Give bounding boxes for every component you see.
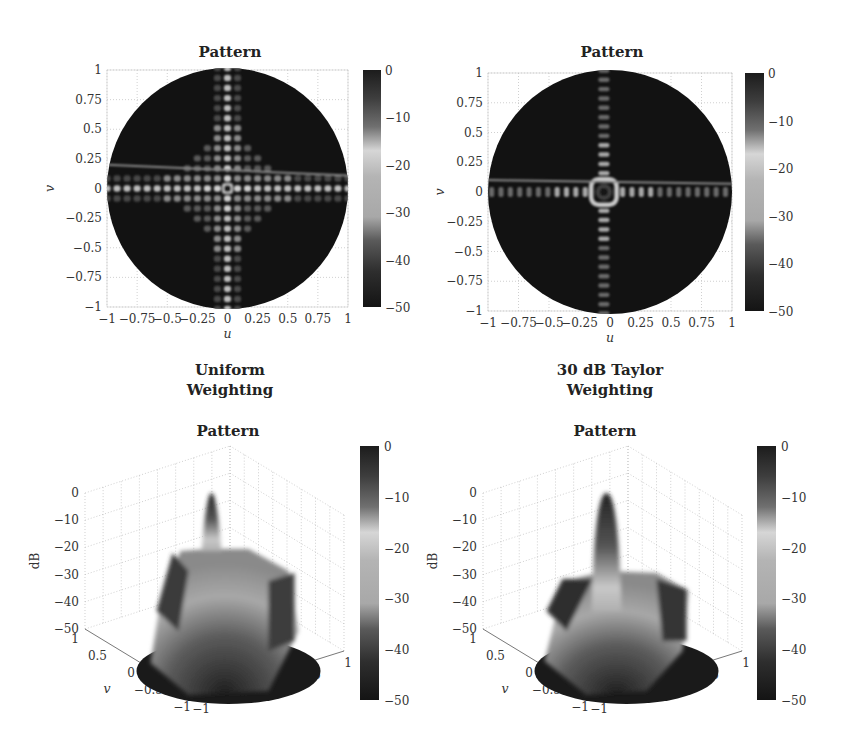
- sidelobe: [334, 175, 341, 181]
- z-tick-label: −30: [54, 568, 79, 582]
- sidelobe: [264, 195, 271, 201]
- sidelobe: [113, 185, 120, 191]
- sidelobe: [234, 225, 241, 231]
- sidelobe: [224, 65, 231, 71]
- colorbar-tick-label: −10: [385, 111, 410, 125]
- colorbar-tick-label: −50: [768, 305, 793, 319]
- v-tick-label: 0.5: [88, 649, 107, 663]
- y-tick-label: 0.75: [456, 96, 483, 110]
- x-tick-label: 0.25: [627, 316, 654, 330]
- sidelobe: [324, 175, 331, 181]
- x-axis-label: u: [606, 330, 614, 345]
- z-tick-label: −10: [452, 513, 477, 527]
- sidelobe: [214, 225, 221, 231]
- sidelobe: [234, 195, 241, 201]
- sidelobe: [244, 215, 251, 221]
- sidelobe: [214, 85, 221, 91]
- figure-canvas: −1−1−0.75−0.75−0.5−0.5−0.25−0.25000.250.…: [0, 0, 852, 750]
- sidelobe-v: [598, 255, 609, 259]
- sidelobe: [144, 195, 151, 201]
- sidelobe: [304, 185, 311, 191]
- sidelobe-v: [598, 246, 609, 250]
- uniform-3d-plot: −50−40−30−20−10010.50−0.5−1−1−0.500.51vu…: [28, 440, 409, 716]
- sidelobe-v: [598, 96, 609, 100]
- mainbeam-peak: [202, 493, 222, 551]
- z-tick-label: 0: [469, 486, 477, 500]
- sidelobe: [224, 135, 231, 141]
- sidelobe: [234, 105, 241, 111]
- sidelobe: [234, 115, 241, 121]
- y-tick-label: −0.75: [446, 274, 483, 288]
- sidelobe: [174, 185, 181, 191]
- sidelobe-u: [564, 187, 569, 197]
- sidelobe-v: [598, 152, 609, 156]
- y-tick-label: −0.25: [446, 215, 483, 229]
- sidelobe: [224, 175, 231, 181]
- sidelobe: [154, 195, 161, 201]
- sidelobe: [224, 256, 231, 262]
- taylor-2d-plot: −1−1−0.75−0.75−0.5−0.5−0.25−0.25000.250.…: [432, 66, 793, 345]
- sidelobe: [214, 266, 221, 272]
- sidelobe: [224, 195, 231, 201]
- sidelobe: [184, 175, 191, 181]
- y-tick-label: 0.25: [75, 152, 102, 166]
- sidelobe: [214, 205, 221, 211]
- sidelobe: [264, 175, 271, 181]
- sidelobe: [123, 175, 130, 181]
- x-tick-label: −0.5: [534, 316, 563, 330]
- sidelobe-u: [573, 187, 578, 197]
- sidelobe: [164, 175, 171, 181]
- sidelobe: [244, 185, 251, 191]
- sidelobe: [224, 235, 231, 241]
- sidelobe: [234, 65, 241, 71]
- colorbar-tick-label: −20: [385, 159, 410, 173]
- sidelobe: [324, 195, 331, 201]
- x-tick-label: 0.25: [244, 312, 271, 326]
- sidelobe: [224, 205, 231, 211]
- sidelobe: [144, 185, 151, 191]
- sidelobe: [234, 306, 241, 312]
- colorbar-tick-label: −20: [781, 542, 806, 556]
- sidelobe-u: [639, 187, 644, 197]
- colorbar: [363, 70, 381, 307]
- sidelobe-u: [667, 187, 672, 197]
- y-tick-label: −0.75: [65, 270, 102, 284]
- sidelobe: [314, 185, 321, 191]
- sidelobe: [134, 195, 141, 201]
- y-tick-label: 0.75: [75, 93, 102, 107]
- sidelobe: [224, 296, 231, 302]
- y-tick-label: 1: [475, 66, 483, 80]
- sidelobe: [294, 185, 301, 191]
- sidelobe: [334, 195, 341, 201]
- sidelobe: [284, 185, 291, 191]
- sidelobe-v: [598, 265, 609, 269]
- sidelobe-u: [657, 187, 662, 197]
- x-tick-label: 0.5: [661, 316, 680, 330]
- sidelobe: [164, 185, 171, 191]
- sidelobe-u: [527, 187, 532, 197]
- sidelobe: [214, 256, 221, 262]
- u-tick-label: 1: [742, 656, 750, 670]
- colorbar-tick-label: −40: [384, 643, 409, 657]
- y-tick-label: −1: [84, 300, 102, 314]
- mainbeam-peak: [600, 188, 608, 196]
- sidelobe: [234, 266, 241, 272]
- sidelobe-u: [723, 187, 728, 197]
- u-tick-label: 1: [344, 656, 352, 670]
- sidelobe: [113, 195, 120, 201]
- sidelobe: [254, 215, 261, 221]
- sidelobe: [194, 155, 201, 161]
- sidelobe-u: [714, 187, 719, 197]
- colorbar-tick-label: −40: [385, 254, 410, 268]
- sidelobe-v: [598, 134, 609, 138]
- sidelobe: [134, 175, 141, 181]
- sidelobe: [324, 185, 331, 191]
- colorbar: [757, 446, 776, 700]
- sidelobe: [214, 286, 221, 292]
- sidelobe-u: [545, 187, 550, 197]
- colorbar-tick-label: −20: [768, 162, 793, 176]
- x-tick-label: 0: [224, 312, 232, 326]
- sidelobe: [214, 235, 221, 241]
- v-tick-label: 0: [127, 666, 135, 680]
- y-tick-label: −1: [465, 304, 483, 318]
